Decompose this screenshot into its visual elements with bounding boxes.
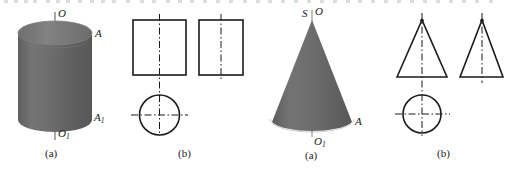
caption-cone-projection: (b) xyxy=(437,148,450,159)
figure-graphics xyxy=(0,0,508,169)
cone-label-base-center-subscript: 1 xyxy=(322,140,326,149)
cylinder-projection-group xyxy=(131,14,243,136)
cylinder-label-axis-bottom: O1 xyxy=(58,128,70,139)
cylinder-label-axis-top: O xyxy=(58,8,66,19)
cone-label-base-edge: A xyxy=(355,116,362,127)
cylinder-label-axis-bottom-subscript: 1 xyxy=(66,132,70,141)
caption-cylinder-pictorial: (a) xyxy=(45,148,57,159)
cone-pictorial-group xyxy=(270,10,354,137)
cone-label-base-center: O1 xyxy=(314,136,326,147)
cylinder-pictorial-group xyxy=(18,12,92,140)
caption-cylinder-projection: (b) xyxy=(178,148,191,159)
cylinder-label-edge-bottom-subscript: 1 xyxy=(101,116,105,125)
cone-label-apex-o: O xyxy=(315,6,323,17)
cone-projection-group xyxy=(395,13,503,136)
cone-label-base-center-base: O xyxy=(314,135,322,147)
cylinder-label-edge-top: A xyxy=(95,28,102,39)
cylinder-label-axis-bottom-base: O xyxy=(58,127,66,139)
figure-canvas: O A A1 O1 (a) (b) S O A O1 (a) (b) xyxy=(0,0,508,169)
cylinder-label-edge-bottom-base: A xyxy=(94,111,101,123)
caption-cone-pictorial: (a) xyxy=(305,150,317,161)
cone-label-apex-s: S xyxy=(302,8,308,19)
cylinder-label-edge-bottom: A1 xyxy=(94,112,104,123)
cone-body xyxy=(272,20,352,131)
